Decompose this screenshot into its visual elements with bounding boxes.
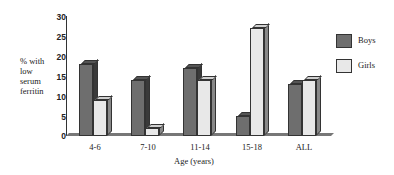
x-tick-label: 11-14 <box>180 142 220 152</box>
x-tick-label: 15-18 <box>232 142 272 152</box>
legend-item-girls: Girls <box>336 59 375 73</box>
bar-boys-4-6 <box>79 64 93 136</box>
y-axis <box>66 16 67 136</box>
y-label-line: ferritin <box>20 86 44 96</box>
y-label-line: % with <box>20 56 44 66</box>
bar-boys-ALL <box>288 84 302 136</box>
legend-item-boys: Boys <box>336 34 375 48</box>
y-tick: 20 <box>52 52 66 62</box>
y-tick: 0 <box>52 131 66 141</box>
legend-swatch-boys <box>336 34 352 48</box>
x-tick-label: 7-10 <box>128 142 168 152</box>
legend-swatch-girls <box>336 59 352 73</box>
y-axis-label: % with low serum ferritin <box>20 56 44 96</box>
y-tick: 10 <box>52 92 66 102</box>
bar-girls-11-14 <box>197 80 211 136</box>
x-tick-label: ALL <box>284 142 324 152</box>
y-tick: 30 <box>52 12 66 22</box>
y-tick: 25 <box>52 32 66 42</box>
x-axis-label: Age (years) <box>174 156 214 166</box>
bar-girls-15-18 <box>250 28 264 136</box>
legend-label: Boys <box>358 35 375 45</box>
bar-boys-11-14 <box>183 68 197 136</box>
bar-girls-4-6 <box>93 100 107 136</box>
bar-girls-7-10 <box>145 128 159 136</box>
x-tick-label: 4-6 <box>75 142 115 152</box>
bar-boys-15-18 <box>236 116 250 136</box>
bar-girls-ALL <box>302 80 316 136</box>
bar-boys-7-10 <box>131 80 145 136</box>
y-tick: 5 <box>52 112 66 122</box>
y-tick: 15 <box>52 72 66 82</box>
y-label-line: low <box>20 66 44 76</box>
y-label-line: serum <box>20 76 44 86</box>
legend-label: Girls <box>358 60 375 70</box>
